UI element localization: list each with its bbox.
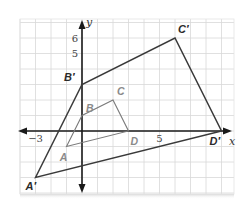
- vertex-label-d-prime: D′: [210, 135, 222, 147]
- vertex-label-c: C: [117, 85, 125, 97]
- vertex-label-a-prime: A′: [25, 180, 38, 192]
- coordinate-plane: yx−3556ABCDA′B′C′D′: [0, 0, 247, 208]
- y-tick-label: 5: [72, 48, 78, 59]
- vertex-label-c-prime: C′: [178, 23, 190, 35]
- x-axis-label: x: [229, 135, 236, 148]
- coordinate-plane-diagram: yx−3556ABCDA′B′C′D′: [0, 0, 247, 208]
- vertex-label-a: A: [59, 151, 68, 163]
- x-tick-label: −3: [28, 133, 43, 144]
- vertex-label-d: D: [131, 135, 139, 147]
- y-tick-label: 6: [72, 33, 78, 44]
- vertex-label-b-prime: B′: [64, 71, 76, 83]
- grid-background: [20, 19, 234, 194]
- y-axis-label: y: [85, 16, 93, 29]
- vertex-label-b: B: [86, 102, 94, 114]
- x-tick-label: 5: [156, 133, 162, 144]
